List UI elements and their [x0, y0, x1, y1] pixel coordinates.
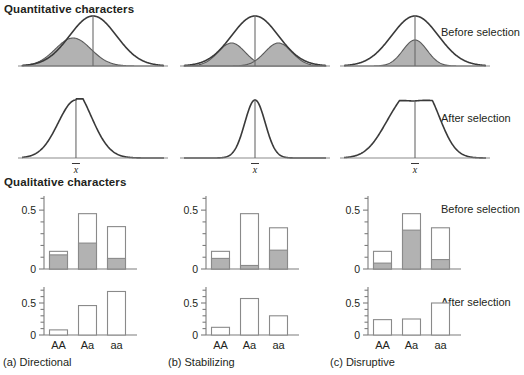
curve-chart-stabilizing-before	[180, 12, 330, 84]
bar-chart-disruptive-after: 00.5AAAaaa	[332, 283, 497, 355]
bar-chart-disruptive-before: 00.5	[332, 192, 497, 277]
curve-chart-disruptive-after: x	[340, 96, 490, 176]
curve-chart-directional-before	[18, 12, 168, 84]
y-axis-tick-label: 0	[354, 263, 360, 275]
bar-total	[79, 306, 97, 335]
bar-chart-stabilizing-before: 00.5	[170, 192, 335, 277]
x-axis-category-label: Aa	[243, 339, 257, 351]
x-axis-category-label: Aa	[405, 339, 419, 351]
x-axis-category-label: AA	[51, 339, 66, 351]
selection-types-figure: Quantitative characters Qualitative char…	[0, 0, 524, 375]
y-axis-tick-label: 0	[354, 329, 360, 341]
bar-selected-portion	[270, 250, 288, 269]
curve-chart-disruptive-before	[340, 12, 490, 84]
bar-selected-portion	[403, 230, 421, 269]
bar-total	[108, 291, 126, 335]
bar-selected-portion	[432, 260, 450, 269]
curve-chart-directional-after: x	[18, 96, 168, 176]
y-axis-tick-label: 0.5	[183, 297, 198, 309]
caption-panel-b: (b) Stabilizing	[168, 356, 235, 368]
mean-symbol-label: x	[252, 164, 258, 175]
x-axis-category-label: aa	[434, 339, 447, 351]
bar-total	[50, 330, 68, 335]
y-axis-tick-label: 0	[192, 329, 198, 341]
x-axis-category-label: AA	[213, 339, 228, 351]
x-axis-category-label: aa	[272, 339, 285, 351]
mean-symbol-label: x	[73, 164, 79, 175]
y-axis-tick-label: 0.5	[21, 204, 36, 216]
y-axis-tick-label: 0	[30, 329, 36, 341]
bar-total	[374, 320, 392, 335]
y-axis-tick-label: 0.5	[183, 204, 198, 216]
qualitative-section-title: Qualitative characters	[4, 176, 126, 188]
bar-selected-portion	[212, 258, 230, 269]
caption-panel-a: (a) Directional	[3, 356, 71, 368]
y-axis-tick-label: 0.5	[21, 297, 36, 309]
bar-total	[241, 299, 259, 335]
mean-symbol-label: x	[412, 164, 418, 175]
bar-total	[432, 303, 450, 335]
y-axis-tick-label: 0.5	[345, 297, 360, 309]
y-axis-tick-label: 0	[192, 263, 198, 275]
bar-selected-portion	[241, 265, 259, 269]
bar-chart-stabilizing-after: 00.5AAAaaa	[170, 283, 335, 355]
bar-total	[212, 327, 230, 335]
x-axis-category-label: Aa	[81, 339, 95, 351]
bar-total	[241, 214, 259, 269]
bar-chart-directional-before: 00.5	[8, 192, 173, 277]
x-axis-category-label: aa	[110, 339, 123, 351]
bar-selected-portion	[50, 255, 68, 269]
y-axis-tick-label: 0.5	[345, 204, 360, 216]
x-axis-category-label: AA	[375, 339, 390, 351]
bar-selected-portion	[374, 263, 392, 269]
bar-selected-portion	[79, 243, 97, 269]
bar-total	[403, 319, 421, 335]
bar-selected-portion	[108, 258, 126, 269]
y-axis-tick-label: 0	[30, 263, 36, 275]
curve-chart-stabilizing-after: x	[180, 96, 330, 176]
caption-panel-c: (c) Disruptive	[330, 356, 395, 368]
bar-total	[270, 316, 288, 335]
bar-chart-directional-after: 00.5AAAaaa	[8, 283, 173, 355]
